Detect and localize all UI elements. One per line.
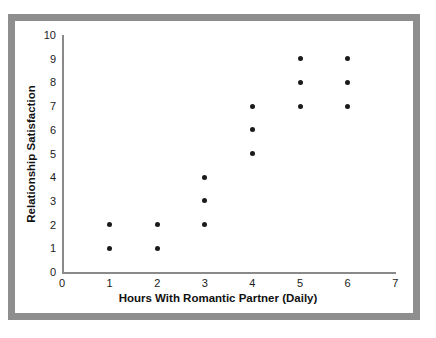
chart-frame-border — [8, 14, 420, 320]
y-axis-title: Relationship Satisfaction — [25, 85, 37, 222]
x-axis-title: Hours With Romantic Partner (Daily) — [0, 292, 436, 304]
scatter-plot-figure: 012345678910 01234567 Relationship Satis… — [0, 0, 436, 338]
